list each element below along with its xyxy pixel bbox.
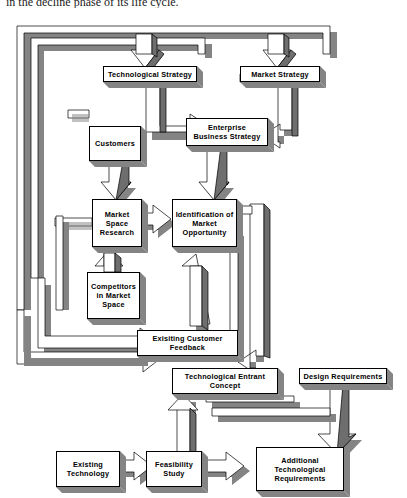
node-label: Exisiting CustomerFeedback <box>150 334 224 352</box>
flow-diagram: .face{fill:#ffffff;stroke:#000;stroke-wi… <box>0 10 407 498</box>
node-existing-technology[interactable]: ExistingTechnology <box>56 451 120 487</box>
node-label: AdditionalTechnologicalRequirements <box>272 456 327 483</box>
node-label: Technological Strategy <box>106 70 194 79</box>
node-technological-entrant-concept[interactable]: Technological EntrantConcept <box>172 368 278 394</box>
node-label: FeasibilityStudy <box>153 460 195 478</box>
node-enterprise-business-strategy[interactable]: EnterpriseBusiness Strategy <box>186 118 268 146</box>
node-competitors-in-market-space[interactable]: Competitorsin MarketSpace <box>87 272 140 319</box>
node-feasibility-study[interactable]: FeasibilityStudy <box>146 451 202 487</box>
node-additional-technological-requirements[interactable]: AdditionalTechnologicalRequirements <box>256 447 344 491</box>
node-label: Technological EntrantConcept <box>183 372 267 390</box>
node-exisiting-customer-feedback[interactable]: Exisiting CustomerFeedback <box>137 330 238 356</box>
node-market-space-research[interactable]: MarketSpaceResearch <box>92 199 142 247</box>
page-caption: in the decline phase of its life cycle. <box>6 0 306 8</box>
node-identification-of-market-opportunity[interactable]: Identification ofMarketOpportunity <box>172 199 237 247</box>
node-label: Competitorsin MarketSpace <box>89 282 138 309</box>
node-design-requirements[interactable]: Design Requirements <box>299 368 387 384</box>
node-label: Market Strategy <box>249 70 311 79</box>
node-label: Identification ofMarketOpportunity <box>174 210 236 237</box>
node-market-strategy[interactable]: Market Strategy <box>240 66 320 82</box>
diagram-connectors: .face{fill:#ffffff;stroke:#000;stroke-wi… <box>0 10 407 498</box>
node-label: Customers <box>93 139 137 148</box>
node-customers[interactable]: Customers <box>89 126 141 161</box>
node-label: ExistingTechnology <box>65 460 111 478</box>
node-label: EnterpriseBusiness Strategy <box>191 123 262 141</box>
node-technological-strategy[interactable]: Technological Strategy <box>103 66 197 82</box>
node-label: MarketSpaceResearch <box>98 210 136 237</box>
node-label: Design Requirements <box>302 372 385 381</box>
